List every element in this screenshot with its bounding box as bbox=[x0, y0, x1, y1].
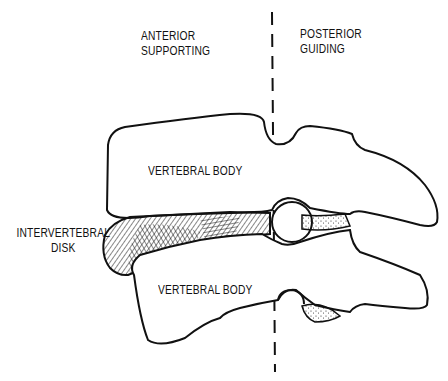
diagram-drawing bbox=[0, 0, 448, 381]
intervertebral-disk-label: INTERVERTEBRAL DISK bbox=[14, 226, 112, 256]
spine-segment-diagram: ANTERIOR SUPPORTING POSTERIOR GUIDING VE… bbox=[0, 0, 448, 381]
anterior-line2: SUPPORTING bbox=[141, 44, 210, 59]
upper-vertebral-body-label: VERTEBRAL BODY bbox=[148, 164, 243, 179]
lower-vertebral-body-label: VERTEBRAL BODY bbox=[158, 283, 253, 298]
posterior-line2: GUIDING bbox=[300, 42, 362, 57]
posterior-label: POSTERIOR GUIDING bbox=[300, 27, 362, 57]
anterior-label: ANTERIOR SUPPORTING bbox=[141, 29, 210, 59]
disk-label-line1: INTERVERTEBRAL bbox=[14, 226, 112, 241]
upper-stippled-cartilage bbox=[302, 214, 350, 230]
anterior-line1: ANTERIOR bbox=[141, 29, 210, 44]
posterior-line1: POSTERIOR bbox=[300, 27, 362, 42]
disk-label-line2: DISK bbox=[14, 241, 112, 256]
